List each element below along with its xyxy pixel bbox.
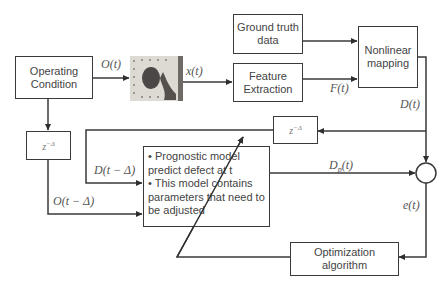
delay-block-left: z−Δ (26, 131, 71, 160)
specimen-photo-icon (130, 56, 183, 101)
prognostic-line-4: parameters that need to (148, 191, 265, 205)
summing-junction (416, 163, 436, 183)
ground-truth-block: Ground truth data (233, 14, 303, 54)
delay-right-label: z−Δ (289, 122, 302, 137)
ground-truth-label: Ground truth data (236, 21, 300, 47)
signal-O-t-minus-delta: O(t − Δ) (53, 194, 94, 209)
prognostic-line-5: be adjusted (148, 204, 265, 218)
prognostic-model-block: • Prognostic model predict defect at t •… (143, 146, 270, 227)
signal-x-t: x(t) (186, 64, 203, 79)
signal-e-t: e(t) (403, 198, 420, 213)
operating-condition-block: Operating Condition (15, 56, 93, 99)
signal-D-t: D(t) (400, 97, 420, 112)
operating-condition-label: Operating Condition (24, 65, 84, 91)
signal-F-t: F(t) (330, 81, 349, 96)
optimization-block: Optimization algorithm (290, 242, 399, 276)
signal-D-t-minus-delta: D(t − Δ) (94, 163, 135, 178)
optimization-label: Optimization algorithm (310, 246, 380, 272)
delay-block-right: z−Δ (273, 116, 318, 144)
nonlinear-mapping-block: Nonlinear mapping (358, 26, 418, 88)
feature-extraction-label: Feature Extraction (238, 70, 298, 96)
delay-left-label: z−Δ (42, 138, 55, 153)
prognostic-line-3: • This model contains (148, 177, 265, 191)
signal-O-t: O(t) (101, 57, 121, 72)
specimen-image (130, 56, 183, 101)
feature-extraction-block: Feature Extraction (233, 63, 303, 102)
nonlinear-mapping-label: Nonlinear mapping (363, 44, 413, 70)
prognostic-line-2: predict defect at t (148, 164, 265, 178)
signal-Dp-t: Dp(t) (329, 158, 353, 174)
prognostic-line-1: • Prognostic model (148, 150, 265, 164)
